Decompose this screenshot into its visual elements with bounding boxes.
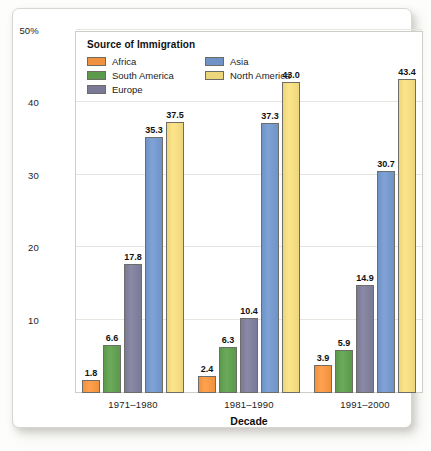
bar-asia: 30.7 xyxy=(377,31,395,393)
y-tick-label-30: 30 xyxy=(0,170,39,181)
legend-label: Africa xyxy=(112,56,136,67)
bar-rect xyxy=(198,376,216,393)
bar-rect xyxy=(282,82,300,393)
legend-swatch-icon xyxy=(87,85,106,94)
legend-items: AfricaAsiaSouth AmericaNorth AmericaEuro… xyxy=(87,54,315,96)
legend-label: Asia xyxy=(230,56,248,67)
x-tick-label: 1971–1980 xyxy=(73,399,193,410)
legend-label: Europe xyxy=(112,84,143,95)
legend-swatch-icon xyxy=(205,57,224,66)
bar-rect xyxy=(377,171,395,393)
bar-rect xyxy=(145,137,163,393)
bar-south-america: 5.9 xyxy=(335,31,353,393)
legend-swatch-icon xyxy=(205,71,224,80)
legend-label: South America xyxy=(112,70,174,81)
y-tick-label-50: 50% xyxy=(0,25,39,36)
legend-swatch-icon xyxy=(87,71,106,80)
bar-rect xyxy=(240,318,258,393)
y-tick-label-10: 10 xyxy=(0,315,39,326)
bar-value-label: 37.5 xyxy=(159,110,191,120)
legend-swatch-icon xyxy=(87,57,106,66)
y-tick-label-40: 40 xyxy=(0,97,39,108)
gridline-50 xyxy=(76,29,422,30)
bar-rect xyxy=(103,345,121,393)
legend-item-south-america: South America xyxy=(87,70,205,81)
legend-label: North America xyxy=(230,70,290,81)
legend-item-africa: Africa xyxy=(87,56,205,67)
bar-rect xyxy=(356,285,374,393)
bar-rect xyxy=(166,122,184,394)
x-tick-label: 1981–1990 xyxy=(189,399,309,410)
bar-europe: 14.9 xyxy=(356,31,374,393)
bar-value-label: 43.4 xyxy=(391,67,423,77)
legend-item-north-america: North America xyxy=(205,70,315,81)
x-tick-label: 1991–2000 xyxy=(305,399,425,410)
chart-card: 1020304050% Percentage of immigrants 1.8… xyxy=(12,8,412,428)
bar-rect xyxy=(219,347,237,393)
chart-page: 1020304050% Percentage of immigrants 1.8… xyxy=(0,0,431,451)
x-axis-title: Decade xyxy=(75,415,423,427)
bar-rect xyxy=(335,350,353,393)
bar-rect xyxy=(314,365,332,393)
bar-north-america: 43.4 xyxy=(398,31,416,393)
bar-rect xyxy=(398,79,416,393)
bar-rect xyxy=(82,380,100,393)
bar-rect xyxy=(261,123,279,393)
legend-title: Source of Immigration xyxy=(87,39,315,50)
bar-group: 3.95.914.930.743.4 xyxy=(307,31,423,393)
legend-item-europe: Europe xyxy=(87,84,205,95)
legend-item-asia: Asia xyxy=(205,56,315,67)
bar-rect xyxy=(124,264,142,393)
y-tick-label-20: 20 xyxy=(0,242,39,253)
legend: Source of Immigration AfricaAsiaSouth Am… xyxy=(87,39,315,96)
